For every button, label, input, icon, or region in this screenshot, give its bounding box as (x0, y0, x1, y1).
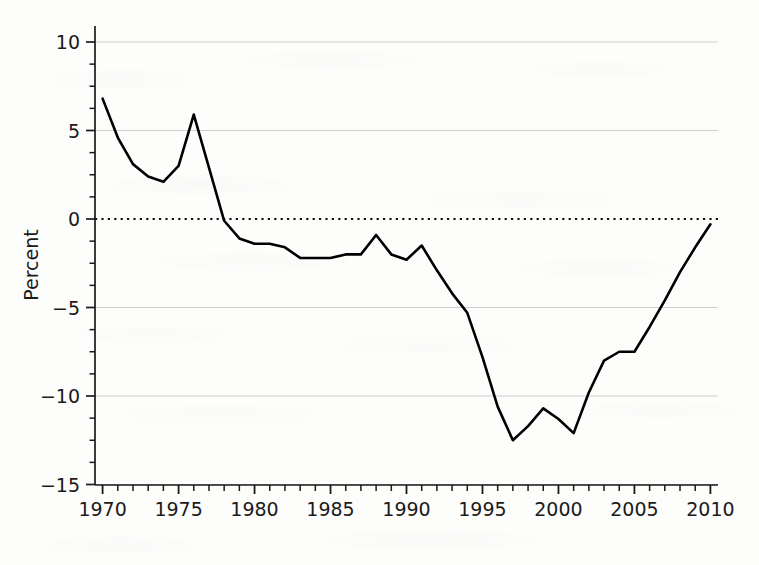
y-tick-label-0: 0 (68, 208, 80, 230)
x-tick-label-1980: 1980 (230, 498, 278, 520)
x-tick-label-1970: 1970 (78, 498, 126, 520)
x-tick-label-1975: 1975 (154, 498, 202, 520)
chart-figure: 1050−5−10−151970197519801985199019952000… (0, 0, 759, 565)
y-tick-label--15: −15 (40, 474, 80, 496)
y-tick-label--10: −10 (40, 385, 80, 407)
x-tick-label-2000: 2000 (534, 498, 582, 520)
x-tick-label-1995: 1995 (458, 498, 506, 520)
y-axis-title: Percent (20, 229, 42, 301)
x-tick-label-2010: 2010 (686, 498, 734, 520)
y-tick-label-5: 5 (68, 120, 80, 142)
x-tick-label-1990: 1990 (382, 498, 430, 520)
line-chart: 1050−5−10−151970197519801985199019952000… (0, 0, 759, 565)
y-tick-label-10: 10 (56, 31, 80, 53)
data-series-0 (103, 99, 711, 441)
x-tick-label-1985: 1985 (306, 498, 354, 520)
y-tick-label--5: −5 (52, 297, 80, 319)
x-tick-label-2005: 2005 (610, 498, 658, 520)
